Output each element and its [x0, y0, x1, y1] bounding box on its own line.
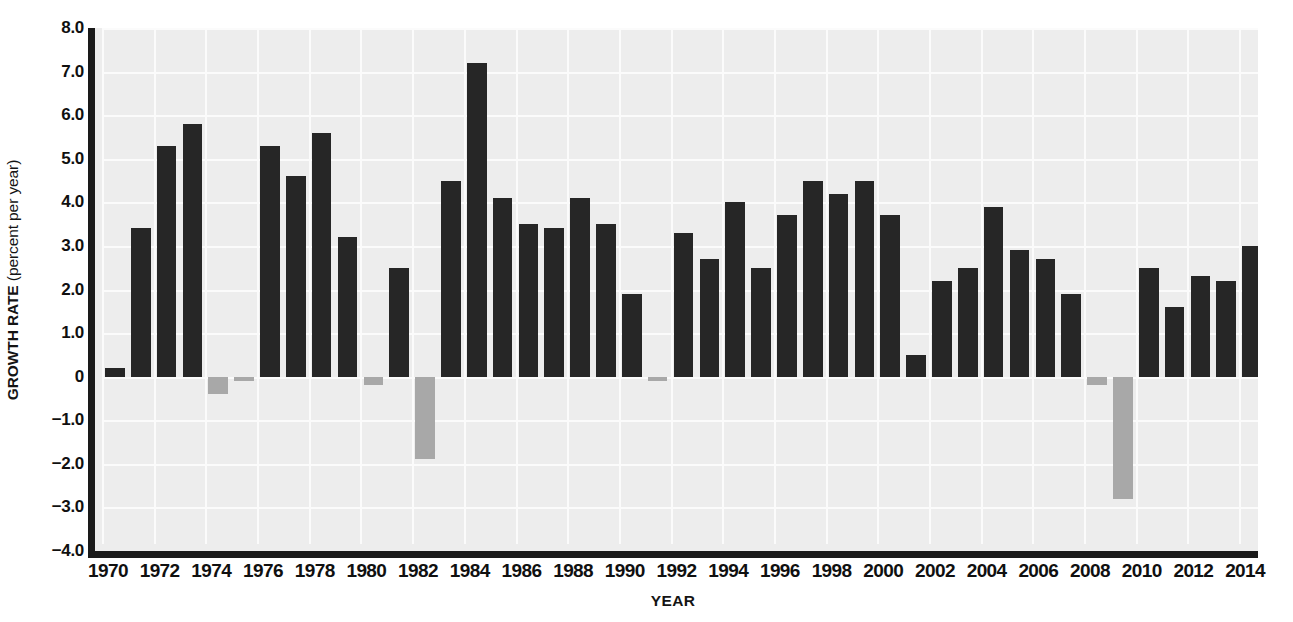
bar [855, 181, 875, 377]
bar [648, 377, 668, 381]
bar [958, 268, 978, 377]
y-axis-tick-label: −4.0 [52, 541, 84, 561]
gridline-vertical [464, 28, 466, 544]
gridline-vertical [619, 28, 621, 544]
x-axis-tick-label: 1996 [760, 560, 800, 582]
gridline-vertical [929, 28, 931, 544]
bar [674, 233, 694, 377]
bar [260, 146, 280, 377]
bar [596, 224, 616, 377]
gridline-vertical [981, 28, 983, 544]
bar [234, 377, 254, 381]
bar [1165, 307, 1185, 377]
y-axis-tick-label: 5.0 [61, 149, 84, 169]
bar [803, 181, 823, 377]
x-axis-tick-label: 1986 [501, 560, 541, 582]
bar [131, 228, 151, 376]
bar [880, 215, 900, 376]
plot-area [102, 28, 1258, 544]
y-axis-tick-label: 3.0 [61, 236, 84, 256]
gridline-vertical [567, 28, 569, 544]
y-axis-tick-label: 2.0 [61, 280, 84, 300]
bar [312, 133, 332, 377]
y-axis-tick-label: −2.0 [52, 454, 84, 474]
bar [1113, 377, 1133, 499]
bar [1191, 276, 1211, 376]
bar [286, 176, 306, 376]
x-axis-tick-label: 2010 [1122, 560, 1162, 582]
bar [467, 63, 487, 377]
bar [493, 198, 513, 377]
x-axis-tick-label: 1982 [398, 560, 438, 582]
bar [1242, 246, 1258, 377]
y-axis-title: GROWTH RATE (percent per year) [0, 0, 26, 560]
y-axis-tick-label: 6.0 [61, 105, 84, 125]
chart-figure: GROWTH RATE (percent per year) 8.07.06.0… [0, 0, 1293, 622]
bar [725, 202, 745, 376]
y-axis-tick-label: 7.0 [61, 62, 84, 82]
bar [415, 377, 435, 460]
bar [208, 377, 228, 394]
x-axis-tick-label: 1992 [657, 560, 697, 582]
x-axis-tick-label: 1974 [191, 560, 231, 582]
gridline-vertical [360, 28, 362, 544]
x-axis-tick-label: 1988 [553, 560, 593, 582]
y-axis-title-strong: GROWTH RATE [4, 285, 21, 400]
bar [105, 368, 125, 377]
bar [777, 215, 797, 376]
bar [984, 207, 1004, 377]
bar [751, 268, 771, 377]
bar [906, 355, 926, 377]
bar [1139, 268, 1159, 377]
bar [1061, 294, 1081, 377]
bar [338, 237, 358, 376]
y-axis-tick-label: −1.0 [52, 410, 84, 430]
plot-frame [88, 28, 1258, 558]
y-axis-tick-label: 1.0 [61, 323, 84, 343]
x-axis-tick-label: 2000 [863, 560, 903, 582]
bar [932, 281, 952, 377]
gridline-vertical [102, 28, 104, 544]
x-axis-tick-label: 1984 [450, 560, 490, 582]
gridline-vertical [309, 28, 311, 544]
bar [183, 124, 203, 377]
bar [570, 198, 590, 377]
x-axis-tick-label: 1998 [812, 560, 852, 582]
bar [622, 294, 642, 377]
x-axis-tick-label: 1972 [140, 560, 180, 582]
bar [544, 228, 564, 376]
y-axis-tick-label: −3.0 [52, 497, 84, 517]
gridline-vertical [412, 28, 414, 544]
y-axis-tick-label: 8.0 [61, 18, 84, 38]
gridline-vertical [1136, 28, 1138, 544]
gridline-vertical [1032, 28, 1034, 544]
gridline-vertical [877, 28, 879, 544]
bar [1010, 250, 1030, 376]
x-axis-tick-label: 2012 [1173, 560, 1213, 582]
bar [364, 377, 384, 386]
bar [829, 194, 849, 377]
x-axis-tick-label: 2008 [1070, 560, 1110, 582]
gridline-vertical [1084, 28, 1086, 544]
bar [389, 268, 409, 377]
gridline-vertical [826, 28, 828, 544]
x-axis-tick-label: 1994 [708, 560, 748, 582]
x-axis-tick-label: 2002 [915, 560, 955, 582]
x-axis-tick-label: 2014 [1225, 560, 1265, 582]
gridline-vertical [722, 28, 724, 544]
bar [441, 181, 461, 377]
gridline-vertical [257, 28, 259, 544]
y-axis-tick-labels: 8.07.06.05.04.03.02.01.00−1.0−2.0−3.0−4.… [26, 0, 88, 622]
bar [157, 146, 177, 377]
y-axis-tick-label: 4.0 [61, 192, 84, 212]
bar [1216, 281, 1236, 377]
y-axis-title-rest: (percent per year) [4, 160, 21, 286]
x-axis-tick-label: 1990 [605, 560, 645, 582]
x-axis-title: YEAR [88, 592, 1258, 610]
gridline-vertical [774, 28, 776, 544]
bar [1087, 377, 1107, 386]
y-axis-tick-label: 0 [75, 367, 84, 387]
x-axis-tick-label: 1970 [88, 560, 128, 582]
gridline-vertical [154, 28, 156, 544]
x-axis-tick-label: 1980 [346, 560, 386, 582]
